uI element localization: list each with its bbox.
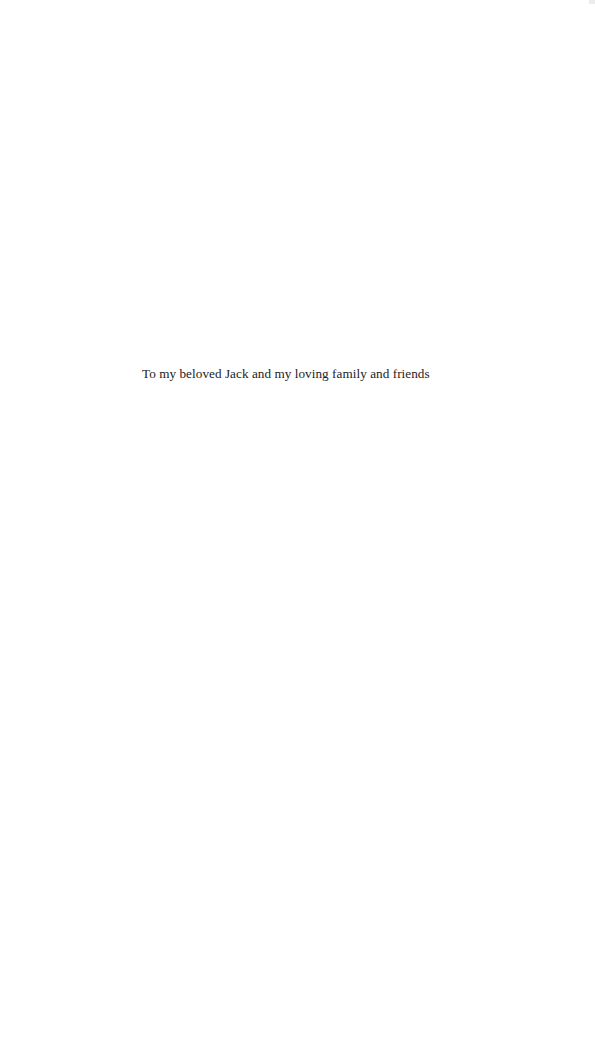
scan-artifact xyxy=(589,0,595,4)
dedication-text: To my beloved Jack and my loving family … xyxy=(142,366,430,382)
book-page: To my beloved Jack and my loving family … xyxy=(0,0,595,1053)
